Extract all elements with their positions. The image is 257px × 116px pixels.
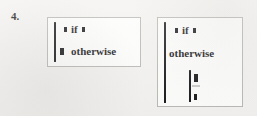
- piecewise-row-otherwise: otherwise: [169, 48, 214, 59]
- condition-label-if: if: [71, 24, 78, 35]
- piecewise-expression-right: if otherwise: [157, 17, 243, 107]
- placeholder-square-icon: [193, 28, 196, 33]
- piecewise-row-otherwise: otherwise: [60, 46, 116, 57]
- placeholder-square-icon: [194, 74, 198, 82]
- placeholder-square-icon: [82, 27, 85, 32]
- brace-bar-icon: [164, 22, 166, 103]
- scan-smudge: [192, 85, 200, 87]
- placeholder-square-icon: [64, 27, 67, 32]
- placeholder-square-icon: [194, 94, 197, 100]
- condition-label-otherwise: otherwise: [71, 46, 116, 57]
- item-number-label: 4.: [11, 10, 19, 22]
- condition-label-if: if: [182, 25, 189, 36]
- piecewise-row-if: if: [171, 25, 200, 36]
- brace-bar-icon: [54, 22, 56, 62]
- scanned-page: 4. if otherwise if otherwise: [0, 0, 257, 116]
- placeholder-square-icon: [60, 48, 64, 55]
- placeholder-square-icon: [175, 28, 178, 33]
- piecewise-expression-left: if otherwise: [47, 17, 141, 67]
- piecewise-row-if: if: [60, 24, 89, 35]
- condition-label-otherwise: otherwise: [169, 48, 214, 59]
- nested-brace-bar-icon: [189, 70, 191, 102]
